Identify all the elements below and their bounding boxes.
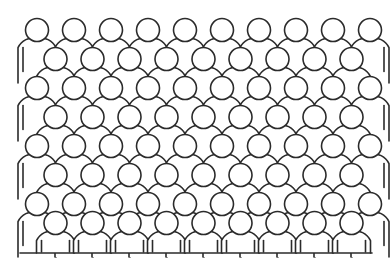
person-head <box>322 77 345 100</box>
crowd-figure-layer <box>18 19 389 258</box>
person-head <box>44 106 67 129</box>
person-head <box>100 77 123 100</box>
person-head <box>174 193 197 216</box>
person-head <box>229 164 252 187</box>
person-head <box>26 77 49 100</box>
person-head <box>248 135 271 158</box>
person-head <box>100 135 123 158</box>
person-head <box>44 212 67 235</box>
person-head <box>340 212 363 235</box>
person-head <box>118 48 141 71</box>
person-head <box>229 212 252 235</box>
person-head <box>118 212 141 235</box>
person-head <box>26 193 49 216</box>
person-head <box>285 193 308 216</box>
person-head <box>303 212 326 235</box>
person-head <box>322 19 345 42</box>
person-head <box>26 19 49 42</box>
person-head <box>211 77 234 100</box>
crowd-row <box>37 212 371 254</box>
person-head <box>285 135 308 158</box>
person-head <box>359 193 382 216</box>
person-head <box>211 135 234 158</box>
person-head <box>118 164 141 187</box>
person-head <box>248 19 271 42</box>
person-head <box>266 106 289 129</box>
person-head <box>118 106 141 129</box>
person-head <box>303 48 326 71</box>
person-head <box>192 212 215 235</box>
person-head <box>81 164 104 187</box>
person-head <box>192 164 215 187</box>
person-head <box>192 106 215 129</box>
person-head <box>174 77 197 100</box>
person-head <box>266 212 289 235</box>
person-head <box>229 106 252 129</box>
person-head <box>192 48 215 71</box>
person-head <box>81 48 104 71</box>
person-head <box>303 164 326 187</box>
person-head <box>81 106 104 129</box>
person-head <box>211 193 234 216</box>
person-head <box>340 48 363 71</box>
person-head <box>100 19 123 42</box>
person-head <box>359 135 382 158</box>
person-head <box>155 164 178 187</box>
person-head <box>322 193 345 216</box>
person-head <box>174 19 197 42</box>
person-head <box>174 135 197 158</box>
person-head <box>266 48 289 71</box>
person-head <box>63 77 86 100</box>
person-head <box>44 48 67 71</box>
person-head <box>137 135 160 158</box>
person-head <box>322 135 345 158</box>
person-head <box>155 48 178 71</box>
person-head <box>63 135 86 158</box>
person-head <box>63 19 86 42</box>
person-head <box>248 193 271 216</box>
person-head <box>266 164 289 187</box>
person-head <box>248 77 271 100</box>
person-head <box>285 77 308 100</box>
person-head <box>26 135 49 158</box>
person-head <box>211 19 234 42</box>
person-head <box>155 106 178 129</box>
crowd-illustration: A dense crowd illustrated as repeated si… <box>0 0 390 267</box>
person-head <box>285 19 308 42</box>
person-head <box>229 48 252 71</box>
person-head <box>100 193 123 216</box>
person-head <box>155 212 178 235</box>
person-head <box>63 193 86 216</box>
person-head <box>359 19 382 42</box>
person-head <box>340 164 363 187</box>
person-head <box>137 193 160 216</box>
person-head <box>340 106 363 129</box>
person-head <box>359 77 382 100</box>
person-head <box>137 19 160 42</box>
person-head <box>137 77 160 100</box>
person-head <box>44 164 67 187</box>
person-head <box>303 106 326 129</box>
person-head <box>81 212 104 235</box>
crowd-pictogram-canvas <box>0 0 390 267</box>
